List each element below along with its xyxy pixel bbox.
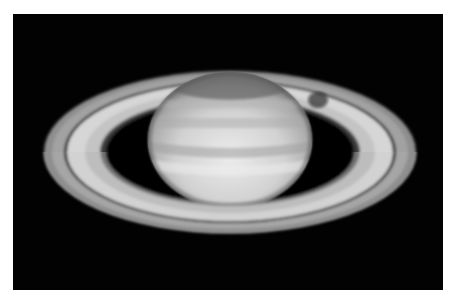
- saturn-illustration: [13, 14, 443, 290]
- planet-shadow: [308, 92, 328, 108]
- saturn-photo: Saturn and its rings: [13, 14, 443, 290]
